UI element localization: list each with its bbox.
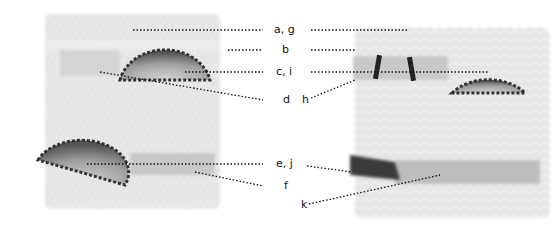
label-k: k bbox=[301, 199, 307, 211]
label-c-i: c, i bbox=[276, 66, 292, 78]
label-h: h bbox=[302, 94, 309, 106]
left-specimen bbox=[45, 14, 220, 209]
label-a-g: a, g bbox=[274, 24, 295, 36]
label-d: d bbox=[283, 94, 290, 106]
label-e-j: e, j bbox=[276, 158, 293, 170]
label-b: b bbox=[282, 44, 289, 56]
right-specimen bbox=[353, 28, 550, 218]
figure-canvas: a, g b c, i d h e, j f k bbox=[0, 0, 556, 230]
label-f: f bbox=[284, 180, 288, 192]
